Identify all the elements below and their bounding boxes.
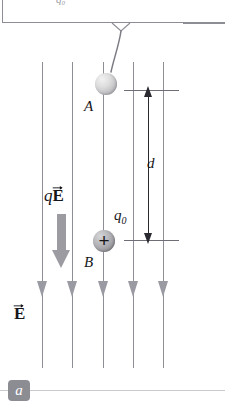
field-line-1 bbox=[42, 62, 43, 368]
charge-label-b: B bbox=[84, 254, 93, 271]
dimension-label-d: d bbox=[147, 155, 155, 172]
vector-arrow-icon bbox=[52, 184, 63, 191]
field-label-E: E bbox=[14, 304, 25, 324]
field-line-2 bbox=[72, 62, 73, 368]
callout-box-right-segment bbox=[183, 0, 225, 24]
callout-truncated-text: q₀ bbox=[56, 0, 96, 5]
panel-divider-rule bbox=[0, 390, 225, 391]
field-arrowhead-3 bbox=[98, 281, 108, 297]
charge-label-q0-letter: q bbox=[114, 207, 122, 223]
physics-figure-panel-a: q₀ d A + q0 B qE E a bbox=[0, 0, 225, 409]
field-arrowhead-2 bbox=[67, 281, 77, 297]
dimension-arrowhead-top bbox=[144, 86, 152, 97]
force-arrowhead bbox=[52, 250, 70, 268]
force-arrow-shaft bbox=[57, 214, 66, 252]
field-arrowhead-4 bbox=[128, 281, 138, 297]
field-line-4 bbox=[133, 62, 134, 368]
charge-label-q0: q0 bbox=[114, 207, 127, 226]
plus-sign-icon: + bbox=[93, 230, 115, 252]
callout-leader-line bbox=[0, 0, 225, 409]
dimension-arrowhead-bottom bbox=[144, 233, 152, 244]
field-arrowhead-1 bbox=[37, 281, 47, 297]
charge-sphere-a bbox=[95, 73, 117, 95]
charge-label-a: A bbox=[84, 98, 93, 115]
panel-label-badge: a bbox=[8, 380, 30, 401]
field-line-3 bbox=[103, 62, 104, 368]
charge-label-q0-subscript: 0 bbox=[122, 215, 127, 226]
vector-arrow-icon bbox=[13, 302, 24, 309]
field-line-5 bbox=[163, 62, 164, 368]
field-arrowhead-5 bbox=[158, 281, 168, 297]
force-label-qE: qE bbox=[44, 186, 64, 206]
force-label-vector-E: E bbox=[53, 186, 64, 206]
field-label-vector-E: E bbox=[14, 304, 25, 324]
